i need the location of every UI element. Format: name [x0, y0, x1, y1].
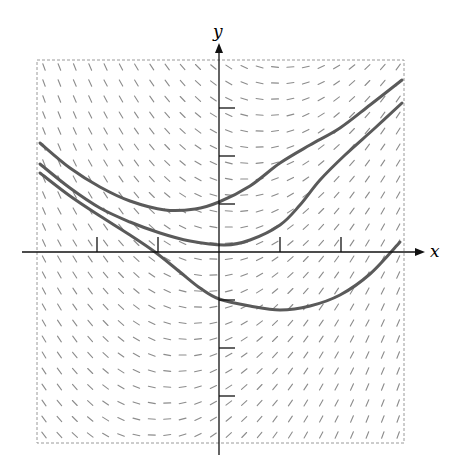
slope-segment	[103, 321, 108, 326]
slope-segment	[396, 144, 400, 150]
slope-segment	[319, 288, 323, 294]
slope-segment	[349, 81, 354, 86]
slope-segment	[273, 416, 277, 422]
slope-segment	[351, 384, 354, 390]
slope-segment	[273, 400, 277, 405]
slope-segment	[88, 352, 93, 357]
slope-segment	[256, 163, 263, 164]
slope-segment	[288, 225, 294, 229]
slope-segment	[257, 337, 262, 341]
slope-segment	[304, 400, 308, 406]
slope-segment	[211, 65, 216, 69]
slope-segment	[350, 240, 354, 246]
slope-segment	[334, 81, 340, 85]
slope-segment	[195, 129, 201, 133]
slope-segment	[88, 320, 92, 325]
slope-segment	[58, 304, 62, 310]
slope-segment	[42, 336, 46, 342]
slope-segment	[180, 193, 186, 197]
slope-segment	[89, 64, 92, 70]
slope-segment	[195, 226, 202, 228]
slope-segment	[288, 289, 293, 294]
slope-segment	[381, 320, 384, 326]
slope-segment	[164, 354, 171, 355]
slope-segment	[241, 114, 248, 116]
slope-segment	[43, 64, 45, 71]
slope-segment	[226, 97, 232, 100]
slope-segment	[366, 208, 370, 214]
slope-segment	[134, 160, 138, 166]
slope-segment	[150, 128, 154, 134]
slope-segment	[87, 433, 93, 437]
slope-segment	[257, 273, 263, 276]
slope-segment	[272, 257, 278, 261]
slope-segment	[226, 65, 232, 69]
slope-segment	[164, 419, 171, 420]
slope-segment	[365, 192, 369, 198]
slope-segment	[335, 352, 338, 358]
slope-segment	[195, 402, 202, 404]
slope-segment	[195, 386, 202, 388]
slope-segment	[241, 321, 247, 325]
slope-segment	[88, 272, 92, 278]
slope-segment	[58, 96, 61, 102]
slope-segment	[320, 416, 323, 422]
slope-segment	[320, 432, 323, 438]
slope-segment	[58, 112, 61, 118]
slope-segment	[73, 176, 76, 182]
slope-segment	[366, 368, 369, 374]
slope-segment	[73, 208, 76, 214]
slope-segment	[104, 144, 107, 150]
slope-segment	[42, 400, 46, 406]
slope-segment	[335, 400, 338, 406]
slope-segment	[365, 144, 369, 150]
slope-segment	[58, 208, 61, 214]
slope-segment	[334, 65, 340, 69]
slope-segment	[195, 113, 200, 117]
slope-segment	[195, 275, 202, 276]
slope-segment	[302, 66, 309, 68]
slope-segment	[119, 144, 123, 150]
slope-segment	[104, 224, 108, 230]
slope-segment	[133, 418, 140, 420]
slope-segment	[72, 433, 77, 438]
slope-segment	[165, 64, 169, 70]
slope-segment	[349, 97, 354, 102]
slope-segment	[210, 291, 217, 292]
slope-segment	[319, 161, 324, 165]
slope-segment	[134, 144, 138, 150]
slope-segment	[304, 288, 309, 293]
slope-segment	[242, 417, 247, 422]
slope-segment	[351, 400, 354, 406]
slope-segment	[366, 224, 370, 230]
slope-segment	[73, 320, 77, 326]
slope-segment	[210, 401, 216, 404]
slope-segment	[303, 129, 309, 132]
slope-segment	[320, 400, 323, 406]
lower-curve	[40, 173, 400, 310]
slope-segment	[225, 162, 232, 164]
slope-segment	[210, 417, 216, 421]
slope-segment	[273, 432, 277, 438]
slope-segment	[58, 240, 61, 246]
slope-segment	[42, 320, 45, 326]
slope-segment	[273, 384, 277, 389]
slope-segment	[149, 322, 155, 325]
slope-segment	[164, 306, 171, 308]
slope-segment	[42, 352, 46, 358]
slope-segment	[303, 98, 310, 100]
slope-segment	[210, 210, 217, 212]
slope-segment	[257, 369, 262, 374]
slope-segment	[89, 160, 92, 166]
slope-segment	[58, 288, 62, 294]
slope-segment	[42, 256, 45, 262]
slope-segment	[150, 96, 154, 102]
slope-segment	[257, 416, 262, 421]
slope-segment	[335, 304, 339, 310]
y-axis-label: y	[212, 21, 223, 41]
slope-segment	[366, 432, 369, 438]
slope-segment	[165, 112, 170, 117]
slope-segment	[164, 241, 170, 245]
slope-segment	[57, 400, 61, 405]
slope-segment	[397, 432, 399, 439]
